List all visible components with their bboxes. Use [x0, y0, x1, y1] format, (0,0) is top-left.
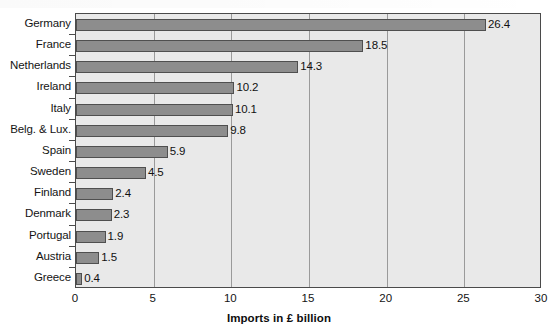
y-axis-category-label: France [36, 34, 71, 55]
x-axis-tick-label: 0 [72, 290, 78, 306]
x-axis-tick-label: 10 [224, 290, 237, 306]
y-axis-category-label: Greece [34, 267, 71, 288]
x-axis-tick-label: 25 [457, 290, 470, 306]
bar [76, 252, 99, 264]
bar-chart: GermanyFranceNetherlandsIrelandItalyBelg… [0, 0, 558, 333]
bar [76, 82, 234, 94]
bar-row: 10.2 [76, 77, 540, 98]
bar-row: 1.5 [76, 247, 540, 268]
bar-value-label: 4.5 [148, 164, 164, 181]
bar-value-label: 14.3 [300, 58, 322, 75]
bar-row: 4.5 [76, 162, 540, 183]
bar-row: 2.4 [76, 183, 540, 204]
bar-value-label: 10.2 [236, 79, 258, 96]
bar [76, 146, 168, 158]
bar [76, 104, 233, 116]
y-axis-category-label: Portugal [29, 225, 71, 246]
x-axis-tick-labels: 051015202530 [0, 290, 558, 308]
bar-value-label: 26.4 [488, 16, 510, 33]
x-axis-title-text: Imports in £ billion [227, 312, 331, 324]
y-axis-category-label: Finland [34, 182, 71, 203]
bar-row: 18.5 [76, 35, 540, 56]
bar-row: 5.9 [76, 141, 540, 162]
bar-value-label: 1.9 [108, 228, 124, 245]
x-axis-tick-label: 5 [149, 290, 155, 306]
x-axis-title: Imports in £ billion [0, 312, 558, 324]
y-axis-category-label: Germany [24, 13, 71, 34]
bar-row: 10.1 [76, 99, 540, 120]
bar-row: 14.3 [76, 56, 540, 77]
bar-row: 2.3 [76, 204, 540, 225]
bar-value-label: 1.5 [101, 249, 117, 266]
bar-value-label: 18.5 [365, 37, 387, 54]
x-axis-tick-label: 15 [302, 290, 315, 306]
plot-area: 26.418.514.310.210.19.85.94.52.42.31.91.… [75, 13, 541, 288]
bar [76, 273, 82, 285]
bar-value-label: 9.8 [230, 122, 246, 139]
bar-value-label: 0.4 [84, 270, 100, 287]
bar-value-label: 2.4 [115, 185, 131, 202]
x-axis-tick-label: 30 [535, 290, 548, 306]
scan-artifact [0, 0, 558, 8]
bar [76, 167, 146, 179]
bar-row: 9.8 [76, 120, 540, 141]
bar-row: 1.9 [76, 226, 540, 247]
bar-value-label: 2.3 [114, 206, 130, 223]
bar [76, 231, 106, 243]
bar [76, 125, 228, 137]
y-axis-category-label: Sweden [30, 161, 71, 182]
bar-value-label: 10.1 [235, 101, 257, 118]
y-axis-category-label: Netherlands [10, 55, 71, 76]
bar [76, 188, 113, 200]
y-axis-category-label: Denmark [25, 203, 71, 224]
y-axis-category-label: Belg. & Lux. [10, 119, 71, 140]
y-axis-category-labels: GermanyFranceNetherlandsIrelandItalyBelg… [0, 13, 71, 288]
y-axis-category-label: Austria [36, 246, 71, 267]
bar [76, 209, 112, 221]
bar-value-label: 5.9 [170, 143, 186, 160]
bar [76, 40, 363, 52]
y-axis-category-label: Spain [42, 140, 71, 161]
x-axis-tick-label: 20 [379, 290, 392, 306]
y-axis-category-label: Ireland [37, 76, 71, 97]
y-axis-category-label: Italy [50, 98, 71, 119]
bar [76, 61, 298, 73]
bar-row: 26.4 [76, 14, 540, 35]
bar [76, 19, 486, 31]
bar-row: 0.4 [76, 268, 540, 289]
